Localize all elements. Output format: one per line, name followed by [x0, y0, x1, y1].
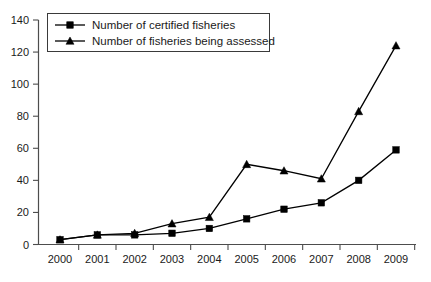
x-tick-label: 2001 — [85, 253, 109, 265]
data-point-square — [206, 225, 213, 232]
data-point-square — [393, 147, 400, 154]
y-tick-label: 20 — [17, 206, 29, 218]
data-point-square — [169, 230, 176, 237]
y-tick-label: 100 — [11, 78, 29, 90]
x-tick-label: 2002 — [122, 253, 146, 265]
x-tick-label: 2000 — [48, 253, 72, 265]
y-tick-label: 0 — [23, 239, 29, 251]
x-tick-label: 2008 — [346, 253, 370, 265]
data-point-square — [318, 200, 325, 207]
x-tick-label: 2003 — [160, 253, 184, 265]
line-chart: 020406080100120140 200020012002200320042… — [0, 0, 431, 282]
x-tick-label: 2009 — [384, 253, 408, 265]
y-tick-label: 140 — [11, 14, 29, 26]
y-tick-label: 40 — [17, 174, 29, 186]
x-tick-label: 2004 — [197, 253, 221, 265]
chart-legend: Number of certified fisheriesNumber of f… — [48, 14, 275, 52]
chart-canvas: 020406080100120140 200020012002200320042… — [0, 0, 431, 282]
y-tick-label: 60 — [17, 142, 29, 154]
data-point-square — [243, 216, 250, 223]
data-point-square — [355, 177, 362, 184]
legend-label: Number of fisheries being assessed — [92, 35, 275, 47]
x-tick-label: 2007 — [309, 253, 333, 265]
x-tick-label: 2006 — [272, 253, 296, 265]
data-point-square — [281, 206, 288, 213]
x-tick-label: 2005 — [234, 253, 258, 265]
data-point-square — [67, 22, 74, 29]
y-tick-label: 120 — [11, 46, 29, 58]
legend-label: Number of certified fisheries — [92, 19, 235, 31]
y-tick-label: 80 — [17, 110, 29, 122]
